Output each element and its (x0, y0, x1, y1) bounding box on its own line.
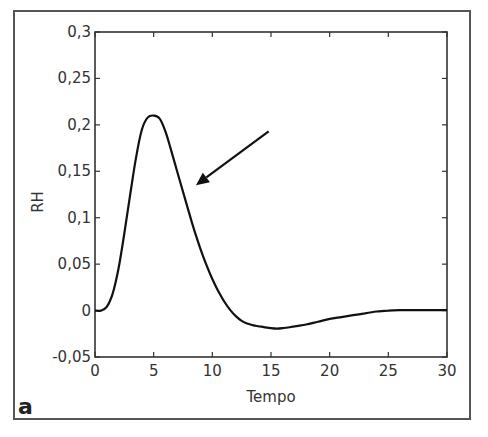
arrow-shaft (206, 131, 268, 177)
axis-ticks (95, 32, 447, 357)
y-tick-label: 0,3 (67, 23, 91, 41)
arrow-head-icon (196, 173, 210, 186)
plot-area (95, 32, 447, 357)
y-tick-labels: -0,0500,050,10,150,20,250,3 (52, 23, 91, 366)
y-tick-label: -0,05 (52, 348, 91, 366)
y-tick-label: 0,05 (58, 255, 91, 273)
x-tick-label: 5 (149, 362, 159, 380)
rh-series-line (95, 115, 447, 328)
y-tick-label: 0 (81, 302, 91, 320)
y-tick-label: 0,15 (58, 162, 91, 180)
x-tick-labels: 051015202530 (90, 362, 456, 380)
x-tick-label: 25 (379, 362, 398, 380)
x-tick-label: 10 (203, 362, 222, 380)
x-tick-label: 0 (90, 362, 100, 380)
x-axis-title: Tempo (245, 388, 295, 406)
rh-line-chart: 051015202530 -0,0500,050,10,150,20,250,3… (0, 0, 488, 437)
panel-label: a (18, 394, 33, 419)
arrow-annotation (196, 131, 269, 185)
x-tick-label: 30 (437, 362, 456, 380)
plot-border (95, 32, 447, 357)
x-tick-label: 20 (320, 362, 339, 380)
y-axis-title: RH (29, 191, 47, 213)
x-tick-label: 15 (261, 362, 280, 380)
y-tick-label: 0,1 (67, 209, 91, 227)
y-tick-label: 0,25 (58, 69, 91, 87)
y-tick-label: 0,2 (67, 116, 91, 134)
